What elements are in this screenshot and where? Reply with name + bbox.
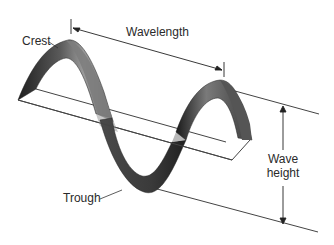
- wave-trough: [100, 118, 186, 193]
- wavelength-label: Wavelength: [126, 25, 189, 39]
- wave-diagram: Crest Wavelength Trough Wave height: [0, 0, 334, 245]
- wave-height-label-line1: Wave: [266, 152, 300, 166]
- trough-label: Trough: [63, 191, 101, 205]
- crest-label: Crest: [22, 34, 51, 48]
- trough-leader: [100, 190, 122, 199]
- wave-height-label-line2: height: [264, 166, 302, 180]
